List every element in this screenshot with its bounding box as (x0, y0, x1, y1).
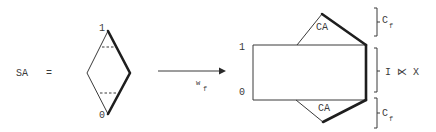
bottom-triangle-label: CA (318, 103, 330, 114)
top-brace-label-sub: f (389, 22, 393, 30)
bottom-brace-label-sub: f (389, 115, 393, 123)
diagram-canvas: SA = 1 0 w f 1 0 CA CA C f I ⋉ X C f (0, 0, 436, 132)
arrow-head-icon (219, 68, 226, 75)
rect-bottom-label: 0 (239, 87, 245, 98)
rect-top-label: 1 (239, 42, 245, 53)
equals-sign: = (46, 68, 52, 79)
rectangle (253, 45, 366, 100)
middle-brace (374, 48, 377, 92)
braces (374, 8, 380, 128)
diamond-right-edges (108, 31, 130, 114)
diamond-left-edges (87, 31, 108, 114)
sa-label: SA (16, 68, 28, 79)
top-triangle-right-edge (322, 14, 366, 45)
diamond-vertex-bottom-label: 0 (99, 110, 105, 121)
bottom-brace (374, 98, 377, 128)
arrow-label-w: w (196, 79, 201, 87)
bottom-brace-label-main: C (382, 108, 388, 119)
diamond-vertex-top-label: 1 (99, 23, 105, 34)
middle-brace-label: I ⋉ X (385, 67, 419, 78)
diamond-shape (87, 31, 130, 114)
mapped-shape (253, 14, 366, 122)
top-triangle-label: CA (316, 22, 328, 33)
arrow-wf (158, 68, 226, 75)
top-brace-label-main: C (382, 15, 388, 26)
top-brace (374, 8, 377, 36)
arrow-label-f: f (203, 85, 207, 93)
